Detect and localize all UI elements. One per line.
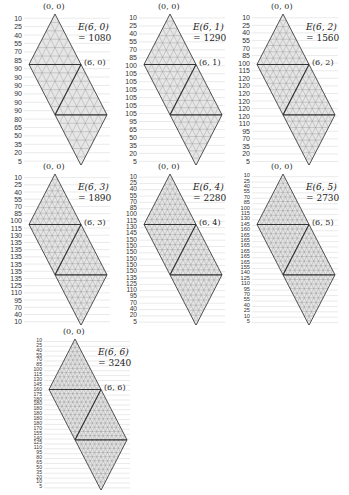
row-count-label: 95 (117, 118, 137, 125)
row-count-label: 95 (2, 297, 22, 304)
row-count-label: 95 (230, 128, 250, 135)
row-count-label: 20 (117, 150, 137, 157)
row-count-label: 40 (230, 29, 250, 36)
row-count-label: 135 (2, 246, 22, 253)
row-count-label: 105 (117, 110, 137, 117)
row-count-label: 10 (2, 15, 22, 22)
row-count-label: 100 (2, 217, 22, 224)
origin-label: (0, 0) (271, 162, 293, 171)
panel-e-6-3: 1025405570851001151301351351351351351351… (0, 160, 116, 325)
row-count-label: 20 (2, 149, 22, 156)
energy-annotation: E(6, 2)= 1560 (306, 22, 339, 44)
energy-value: = 1290 (193, 33, 226, 44)
energy-annotation: E(6, 6)= 3240 (98, 347, 131, 369)
row-count-label: 10 (2, 318, 22, 325)
row-count-label: 70 (230, 45, 250, 52)
row-count-label: 65 (2, 124, 22, 131)
energy-value: = 2730 (306, 193, 339, 204)
row-count-label: 90 (2, 99, 22, 106)
row-count-label: 55 (2, 40, 22, 47)
row-count-label: 10 (117, 14, 137, 21)
energy-annotation: E(6, 4)= 2280 (193, 182, 226, 204)
row-count-label: 65 (117, 126, 137, 133)
row-count-label: 105 (117, 70, 137, 77)
row-count-label: 35 (117, 142, 137, 149)
row-count-label: 135 (2, 275, 22, 282)
corner-label: (6, 4) (199, 218, 221, 227)
row-count-label: 125 (2, 282, 22, 289)
corner-label: (6, 5) (312, 218, 334, 227)
row-count-label: 70 (2, 203, 22, 210)
row-count-label: 10 (2, 174, 22, 181)
panel-e-6-2: 1025405570851001151201201201201201201109… (228, 0, 344, 165)
row-count-label: 5 (230, 319, 250, 325)
origin-label: (0, 0) (63, 327, 85, 336)
row-count-label: 85 (2, 210, 22, 217)
row-count-label: 70 (2, 48, 22, 55)
row-count-label: 120 (230, 82, 250, 89)
row-count-label: 5 (22, 484, 42, 489)
row-count-label: 20 (230, 150, 250, 157)
energy-label: E(6, 2) (306, 22, 339, 33)
energy-annotation: E(6, 0)= 1080 (78, 22, 111, 44)
energy-label: E(6, 4) (193, 182, 226, 193)
row-count-label: 135 (2, 261, 22, 268)
row-count-label: 40 (2, 311, 22, 318)
row-count-label: 35 (2, 141, 22, 148)
row-count-label: 105 (117, 86, 137, 93)
energy-label: E(6, 0) (78, 22, 111, 33)
row-count-label: 115 (230, 67, 250, 74)
row-count-label: 55 (117, 38, 137, 45)
row-count-label: 25 (230, 22, 250, 29)
row-count-label: 80 (2, 116, 22, 123)
row-count-label: 120 (230, 105, 250, 112)
row-count-label: 120 (230, 90, 250, 97)
origin-label: (0, 0) (271, 2, 293, 11)
energy-label: E(6, 5) (306, 182, 339, 193)
row-count-label: 135 (2, 268, 22, 275)
row-count-label: 90 (2, 74, 22, 81)
row-count-label: 55 (2, 196, 22, 203)
row-count-label: 130 (2, 232, 22, 239)
corner-label: (6, 2) (312, 58, 334, 67)
row-count-label: 70 (230, 135, 250, 142)
origin-label: (0, 0) (43, 162, 65, 171)
row-count-label: 70 (117, 46, 137, 53)
row-count-label: 90 (2, 82, 22, 89)
energy-annotation: E(6, 1)= 1290 (193, 22, 226, 44)
row-count-label: 70 (2, 304, 22, 311)
panel-e-6-0: 10254055708590909090909080655035205(0, 0… (0, 0, 116, 165)
row-count-label: 90 (2, 65, 22, 72)
origin-label: (0, 0) (158, 162, 180, 171)
corner-label: (6, 3) (84, 218, 106, 227)
energy-value: = 3240 (98, 358, 131, 369)
corner-label: (6, 6) (104, 383, 126, 392)
row-count-label: 25 (2, 23, 22, 30)
row-count-label: 135 (2, 239, 22, 246)
row-count-label: 55 (230, 37, 250, 44)
energy-annotation: E(6, 3)= 1890 (78, 182, 111, 204)
row-count-label: 110 (2, 289, 22, 296)
row-count-label: 100 (117, 62, 137, 69)
row-count-label: 105 (117, 78, 137, 85)
energy-value: = 1080 (78, 33, 111, 44)
energy-value: = 1890 (78, 193, 111, 204)
row-count-label: 85 (117, 54, 137, 61)
origin-label: (0, 0) (158, 2, 180, 11)
row-count-label: 10 (230, 14, 250, 21)
row-count-label: 50 (2, 132, 22, 139)
origin-label: (0, 0) (43, 2, 65, 11)
panel-e-6-5: 1025405570851001151301451601651651651651… (228, 160, 344, 325)
energy-value: = 2280 (193, 193, 226, 204)
panel-e-6-4: 1025405570851001151301451501501501501501… (115, 160, 231, 325)
row-count-label: 25 (2, 181, 22, 188)
row-count-label: 90 (2, 90, 22, 97)
row-count-label: 85 (230, 52, 250, 59)
row-count-label: 90 (2, 107, 22, 114)
row-count-label: 120 (230, 113, 250, 120)
row-count-label: 25 (117, 22, 137, 29)
row-count-label: 85 (2, 57, 22, 64)
row-count-label: 40 (2, 32, 22, 39)
row-count-label: 120 (230, 98, 250, 105)
panel-e-6-6: 1025405570851001151301451601751801801801… (20, 325, 136, 490)
